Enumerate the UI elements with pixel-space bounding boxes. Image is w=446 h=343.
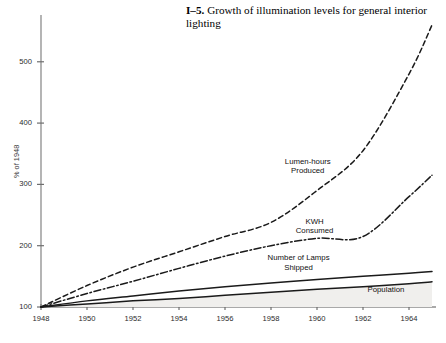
- series-label-number-of-lamps-shipped: Number of LampsShipped: [268, 253, 330, 272]
- chart-plot-area: % of 1948 100200300400500194819501952195…: [0, 0, 446, 343]
- series-label-population: Population: [368, 285, 405, 294]
- chart-series-lines: [41, 25, 432, 307]
- figure-panel: I–5. Growth of illumination levels for g…: [0, 0, 446, 343]
- chart-axes: [37, 15, 436, 310]
- series-label-kwh-consumed: KWHConsumed: [296, 217, 334, 236]
- series-line-lumen-hours-produced: [41, 25, 432, 307]
- series-label-lumen-hours-produced: Lumen-hoursProduced: [285, 157, 331, 176]
